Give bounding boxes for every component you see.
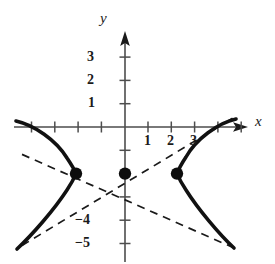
y-tick-label-2: 2 [87,73,94,87]
point-left-vertex [70,167,82,179]
x-axis-label: x [255,114,262,129]
point-center [119,167,131,179]
point-right-vertex [171,167,183,179]
y-tick-label-3: 3 [87,50,94,64]
x-tick-label-3: 3 [190,134,197,148]
y-tick-label-neg5: −5 [75,236,90,250]
y-axis-label: y [100,11,107,26]
hyperbola-left-branch [16,121,76,249]
hyperbola-right-branch [177,119,236,248]
hyperbola-graph-figure: 3 2 1 −4 −5 1 2 3 y x [0,0,275,264]
y-tick-label-1: 1 [88,96,95,110]
graph-canvas [0,0,275,264]
marked-points-group [70,167,183,179]
x-tick-label-1: 1 [144,134,151,148]
x-tick-label-2: 2 [167,134,174,148]
y-tick-label-neg4: −4 [75,213,90,227]
